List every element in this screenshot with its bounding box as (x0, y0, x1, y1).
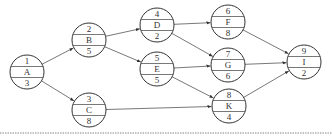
node-duration: 3 (25, 78, 30, 88)
node-number: 9 (302, 46, 307, 56)
edge-e-to-k (172, 77, 213, 98)
node-label: G (225, 60, 232, 70)
node-label: E (154, 64, 160, 74)
node-label: C (86, 105, 92, 115)
node-c: 3C8 (72, 93, 106, 127)
node-number: 6 (226, 6, 231, 16)
node-duration: 8 (226, 28, 231, 38)
node-number: 5 (155, 53, 160, 63)
node-b: 2B5 (72, 23, 106, 57)
node-i: 9I2 (287, 45, 321, 79)
node-k: 8K4 (212, 89, 246, 123)
edge-d-to-f (174, 23, 211, 25)
edge-k-to-i (244, 71, 289, 98)
edge-b-to-d (106, 29, 140, 37)
node-label: F (225, 17, 230, 27)
node-number: 1 (25, 56, 30, 66)
edge-e-to-g (174, 66, 211, 68)
edge-f-to-i (243, 30, 289, 54)
node-duration: 6 (226, 71, 231, 81)
node-duration: 5 (87, 46, 92, 56)
node-duration: 8 (87, 116, 92, 126)
node-duration: 5 (155, 75, 160, 85)
node-label: A (24, 67, 31, 77)
edge-a-to-b (42, 48, 73, 64)
node-label: D (154, 20, 161, 30)
node-label: B (86, 35, 92, 45)
node-e: 5E5 (140, 52, 174, 86)
node-d: 4D2 (140, 8, 174, 42)
node-duration: 2 (155, 31, 160, 41)
node-label: I (303, 57, 306, 67)
node-a: 1A3 (10, 55, 44, 89)
node-number: 8 (227, 90, 232, 100)
node-number: 4 (155, 9, 160, 19)
edge-c-to-k (106, 107, 212, 110)
node-g: 7G6 (211, 48, 245, 82)
edge-b-to-e (105, 47, 141, 62)
network-diagram: 1A32B53C84D25E56F87G68K49I2 (0, 0, 332, 137)
node-duration: 4 (227, 112, 232, 122)
edge-a-to-c (42, 81, 75, 101)
node-duration: 2 (302, 68, 307, 78)
nodes-layer: 1A32B53C84D25E56F87G68K49I2 (10, 5, 321, 127)
node-number: 2 (87, 24, 92, 34)
node-label: K (226, 101, 233, 111)
node-number: 7 (226, 49, 231, 59)
edge-g-to-i (245, 63, 287, 65)
node-f: 6F8 (211, 5, 245, 39)
node-number: 3 (87, 94, 92, 104)
edge-d-to-g (172, 33, 213, 56)
